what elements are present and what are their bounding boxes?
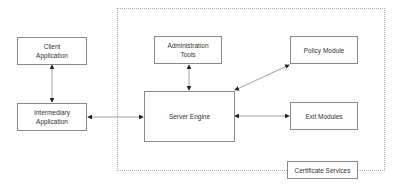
exit-modules-node: Exit Modules — [290, 102, 358, 130]
server-engine-node: Server Engine — [144, 91, 235, 142]
administration-tools-node: Administration Tools — [154, 36, 222, 64]
client-application-node: Client Application — [17, 37, 87, 65]
certificate-services-label: Certificate Services — [287, 161, 358, 179]
edge-server-policy — [235, 65, 289, 90]
policy-module-node: Policy Module — [290, 36, 358, 64]
intermediary-application-node: Intermediary Application — [17, 103, 87, 131]
